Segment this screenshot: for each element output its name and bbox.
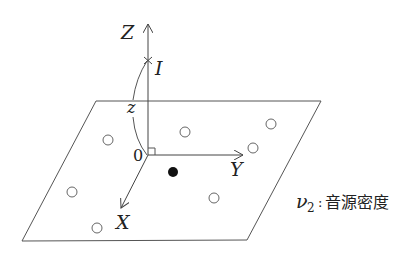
- distance-z-label: z: [126, 98, 136, 117]
- legend-subscript: 2: [307, 201, 315, 215]
- legend-separator: :: [318, 195, 322, 210]
- source-circle: [209, 193, 219, 203]
- source-circle: [103, 135, 113, 145]
- filled-source-dot: [168, 167, 178, 177]
- point-i-label: I: [154, 57, 163, 79]
- y-axis-label: Y: [230, 158, 245, 180]
- source-circle: [266, 119, 276, 129]
- source-circle: [180, 127, 190, 137]
- x-axis-label: X: [114, 211, 131, 233]
- source-circle: [248, 143, 258, 153]
- source-circle: [67, 187, 77, 197]
- source-circle: [92, 223, 102, 233]
- distance-arc-upper: [133, 61, 147, 100]
- legend-text: 音源密度: [325, 193, 389, 212]
- right-angle-marker: [148, 148, 155, 155]
- legend: ν 2 : 音源密度: [296, 190, 389, 215]
- origin-label: 0: [133, 146, 143, 165]
- z-axis-label: Z: [120, 21, 135, 43]
- sound-source-density-diagram: Z I z 0 Y X ν 2 : 音源密度: [0, 0, 419, 256]
